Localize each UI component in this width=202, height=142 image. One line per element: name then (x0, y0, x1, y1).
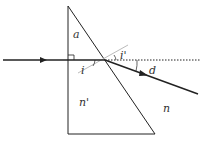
refracted-arrow-icon (139, 70, 148, 76)
label-refraction-angle: i' (120, 49, 127, 62)
angle-i-prime-arc (114, 55, 116, 60)
label-apex-angle: a (73, 28, 80, 41)
label-prism-index: n' (79, 96, 89, 109)
label-incidence-angle: i (81, 64, 85, 77)
angle-d-arc (136, 60, 137, 71)
incident-arrow-icon (40, 57, 47, 63)
label-medium-index: n (163, 102, 170, 115)
angle-i-arc (93, 60, 95, 66)
right-angle-marker (68, 55, 74, 60)
prism-refraction-diagram: a i i' d n' n (0, 0, 202, 142)
label-deviation: d (149, 64, 156, 77)
